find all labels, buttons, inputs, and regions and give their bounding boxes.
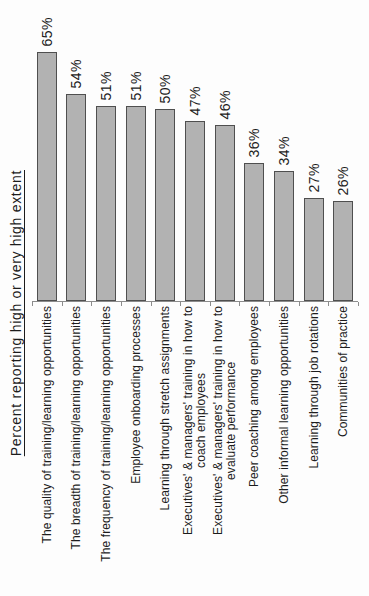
bar — [37, 52, 57, 301]
bar-value-label: 65% — [40, 17, 55, 47]
axis-tick — [121, 302, 122, 306]
bar-chart: Percent reporting high or very high exte… — [0, 0, 369, 596]
bar — [96, 106, 116, 301]
bar-value-label: 34% — [277, 136, 292, 166]
axis-tick — [62, 302, 63, 306]
bar — [185, 121, 205, 301]
bar — [244, 163, 264, 301]
axis-tick — [91, 302, 92, 306]
axis-tick — [32, 302, 33, 306]
bar — [304, 198, 324, 301]
bar-value-label: 26% — [336, 166, 351, 196]
category-label: Employee onboarding processes — [130, 306, 143, 484]
bar — [333, 201, 353, 301]
bar-value-label: 50% — [158, 74, 173, 104]
bar — [215, 125, 235, 301]
axis-tick — [358, 302, 359, 306]
bar — [66, 94, 86, 301]
category-label: Learning through stretch assignments — [159, 306, 172, 510]
category-label: Peer coaching among employees — [248, 306, 261, 487]
category-label: The quality of training/learning opportu… — [41, 306, 54, 543]
bar — [155, 109, 175, 301]
bar-value-label: 54% — [69, 59, 84, 89]
bar — [126, 106, 146, 301]
axis-tick — [151, 302, 152, 306]
axis-tick — [269, 302, 270, 306]
category-label: Other informal learning opportunities — [278, 306, 291, 504]
category-label: The breadth of training/learning opportu… — [70, 306, 83, 549]
bar-value-label: 51% — [129, 71, 144, 101]
bar — [274, 171, 294, 301]
category-label: Learning through job rotations — [308, 306, 321, 468]
bar-value-label: 36% — [247, 128, 262, 158]
category-label: Executives' & managers' training in how … — [212, 306, 238, 535]
category-label: Executives' & managers' training in how … — [182, 306, 208, 535]
bar-value-label: 47% — [188, 86, 203, 116]
axis-tick — [239, 302, 240, 306]
axis-tick — [299, 302, 300, 306]
bar-value-label: 51% — [99, 71, 114, 101]
y-axis-title: Percent reporting high or very high exte… — [8, 170, 24, 456]
bar-value-label: 46% — [218, 90, 233, 120]
axis-tick — [328, 302, 329, 306]
category-label: The frequency of training/learning oppor… — [100, 306, 113, 562]
category-label: Communities of practice — [337, 306, 350, 437]
x-axis-line — [32, 301, 358, 302]
bar-value-label: 27% — [307, 163, 322, 193]
